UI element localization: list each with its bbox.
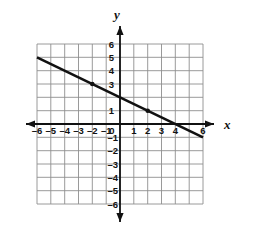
y-tick-label-1: 1	[109, 105, 115, 116]
y-tick-label-4: 4	[109, 65, 115, 76]
y-axis-top-arrow	[116, 26, 123, 35]
graph-screenshot: x y 0 –6 –5 –4 –3 –2 –1 1 2 3 4 6 6 5 4 …	[0, 0, 254, 233]
y-tick-label-neg6: –6	[107, 199, 118, 210]
y-tick-label-6: 6	[109, 39, 114, 50]
x-tick-label-1: 1	[131, 125, 137, 136]
y-tick-label-5: 5	[109, 52, 115, 63]
x-tick-label-2: 2	[145, 125, 150, 136]
x-tick-label-6: 6	[200, 125, 205, 136]
y-tick-label-3: 3	[109, 79, 114, 90]
y-tick-label-neg3: –3	[107, 159, 118, 170]
y-tick-label-neg2: –2	[107, 145, 118, 156]
x-axis-right-arrow	[205, 120, 214, 127]
y-axis-label: y	[112, 7, 120, 22]
coordinate-plane-figure: x y 0 –6 –5 –4 –3 –2 –1 1 2 3 4 6 6 5 4 …	[0, 0, 254, 233]
y-axis-bottom-arrow	[116, 213, 123, 222]
y-tick-label-neg4: –4	[107, 172, 118, 183]
x-tick-label-3: 3	[159, 125, 164, 136]
x-axis-label: x	[223, 117, 231, 132]
x-tick-label-neg6: –6	[32, 125, 43, 136]
y-tick-label-neg1: –1	[107, 132, 118, 143]
x-tick-label-neg3: –3	[73, 125, 84, 136]
x-tick-label-neg4: –4	[59, 125, 70, 136]
plot-point-marker	[90, 82, 95, 87]
x-tick-label-4: 4	[173, 125, 179, 136]
x-tick-label-neg5: –5	[46, 125, 57, 136]
y-tick-label-neg5: –5	[107, 185, 118, 196]
x-tick-label-neg2: –2	[87, 125, 98, 136]
plot-point-marker	[145, 108, 150, 113]
